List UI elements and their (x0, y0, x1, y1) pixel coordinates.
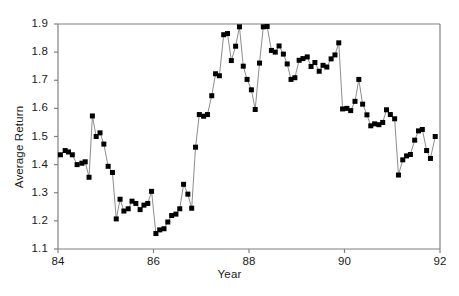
data-point (265, 24, 270, 29)
data-point (98, 130, 103, 135)
data-point (388, 112, 393, 117)
data-point (392, 116, 397, 121)
data-point (114, 216, 119, 221)
data-point (185, 192, 190, 197)
data-point (189, 206, 194, 211)
data-point (384, 107, 389, 112)
data-point (138, 207, 143, 212)
data-point (324, 65, 329, 70)
data-point (300, 56, 305, 61)
data-point (281, 52, 286, 57)
data-point (340, 106, 345, 111)
data-point (348, 108, 353, 113)
data-point (412, 138, 417, 143)
data-point (317, 69, 322, 74)
data-point (273, 50, 278, 55)
data-point (277, 43, 282, 48)
data-point (420, 127, 425, 132)
data-point (145, 201, 150, 206)
data-point (305, 54, 310, 59)
data-point (285, 61, 290, 66)
data-point (75, 162, 80, 167)
series-line-0 (60, 27, 435, 234)
data-point (336, 40, 341, 45)
data-point (257, 61, 262, 66)
plot-area (0, 0, 459, 296)
data-point (356, 77, 361, 82)
data-point (205, 112, 210, 117)
data-point (424, 148, 429, 153)
data-point (332, 52, 337, 57)
data-point (83, 159, 88, 164)
data-point (225, 31, 230, 36)
data-point (353, 99, 358, 104)
data-point (237, 24, 242, 29)
data-point (312, 60, 317, 65)
data-point (396, 173, 401, 178)
data-point (101, 142, 106, 147)
data-point (233, 44, 238, 49)
data-point (229, 58, 234, 63)
data-point (157, 227, 162, 232)
data-point (433, 134, 438, 139)
data-point (245, 77, 250, 82)
data-point (177, 206, 182, 211)
data-point (173, 212, 178, 217)
data-point (428, 156, 433, 161)
data-point (360, 102, 365, 107)
data-point (209, 93, 214, 98)
data-point (241, 64, 246, 69)
data-point (364, 112, 369, 117)
data-point (253, 107, 258, 112)
data-point (149, 189, 154, 194)
data-point (106, 164, 111, 169)
data-point (408, 152, 413, 157)
chart-container: Average Return Year 1.11.21.31.41.51.61.… (0, 0, 459, 296)
data-point (70, 152, 75, 157)
data-point (126, 206, 131, 211)
data-point (110, 170, 115, 175)
data-point (133, 201, 138, 206)
data-point (292, 75, 297, 80)
data-point (58, 152, 63, 157)
data-point (90, 113, 95, 118)
data-point (87, 175, 92, 180)
data-point (162, 226, 167, 231)
data-point (197, 112, 202, 117)
data-point (380, 120, 385, 125)
data-point (118, 197, 123, 202)
data-point (217, 73, 222, 78)
data-point (372, 121, 377, 126)
data-point (121, 209, 126, 214)
data-point (169, 213, 174, 218)
data-point (249, 87, 254, 92)
data-point (165, 220, 170, 225)
data-point (193, 145, 198, 150)
data-point (181, 182, 186, 187)
